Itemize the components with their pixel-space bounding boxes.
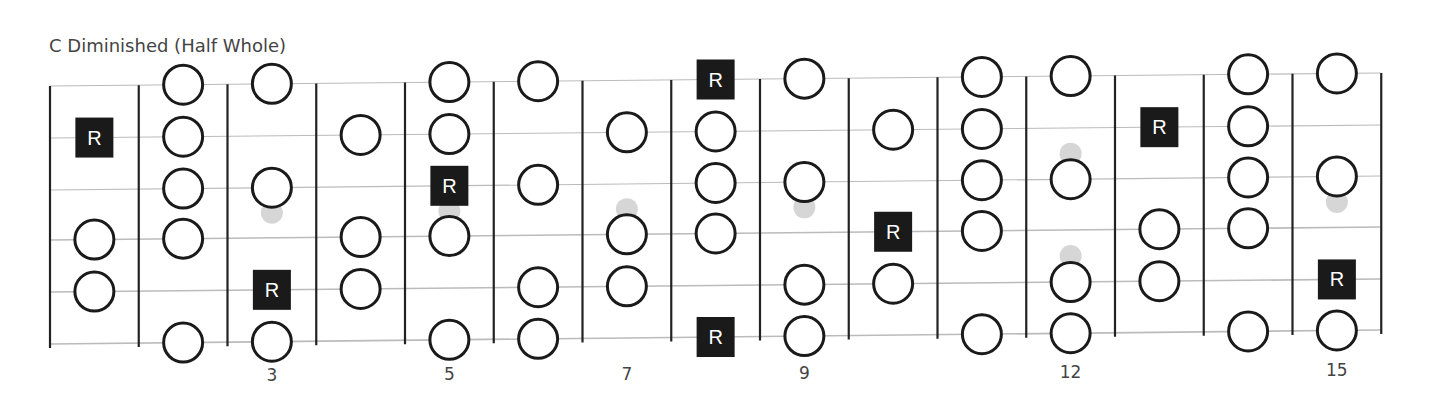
scale-note-circle-icon <box>430 63 469 102</box>
fret-number-9: 9 <box>799 363 810 383</box>
scale-note-circle-icon <box>1229 209 1268 248</box>
scale-note-circle-icon <box>75 272 114 311</box>
root-label: R <box>442 175 456 197</box>
scale-note-circle-icon <box>874 264 913 303</box>
root-label: R <box>1330 268 1344 290</box>
scale-note-circle-icon <box>252 168 291 207</box>
fret-number-7: 7 <box>621 364 632 384</box>
scale-note-circle-icon <box>430 115 469 154</box>
scale-note-circle-icon <box>1229 107 1268 146</box>
scale-note-circle-icon <box>519 268 558 307</box>
fretboard-diagram: RRRRRRRR 35791215 <box>0 0 1452 414</box>
root-note-marker: R <box>75 118 113 158</box>
scale-note-circle-icon <box>341 269 380 308</box>
scale-note-circle-icon <box>1140 262 1179 301</box>
scale-note-circle-icon <box>785 317 824 356</box>
scale-note-circle-icon <box>519 165 558 204</box>
scale-note-circle-icon <box>1051 57 1090 96</box>
root-note-marker: R <box>697 60 735 100</box>
scale-note-circle-icon <box>252 322 291 361</box>
root-label: R <box>708 69 722 91</box>
root-label: R <box>87 127 101 149</box>
root-note-marker: R <box>1318 259 1356 299</box>
scale-note-circle-icon <box>607 113 646 152</box>
scale-note-circle-icon <box>164 117 203 156</box>
scale-note-circle-icon <box>430 320 469 359</box>
root-note-marker: R <box>874 212 912 252</box>
scale-note-circle-icon <box>164 219 203 258</box>
fret-number-3: 3 <box>266 365 277 385</box>
string-line-5 <box>50 279 1381 292</box>
root-note-marker: R <box>430 166 468 206</box>
root-note-marker: R <box>253 270 291 310</box>
scale-note-circle-icon <box>1140 210 1179 249</box>
fret-number-15: 15 <box>1326 360 1348 380</box>
scale-note-circle-icon <box>785 59 824 98</box>
scale-note-circle-icon <box>430 217 469 256</box>
scale-note-circle-icon <box>1229 55 1268 94</box>
scale-note-circle-icon <box>164 169 203 208</box>
root-label: R <box>1152 116 1166 138</box>
root-label: R <box>265 279 279 301</box>
root-note-marker: R <box>1140 107 1178 147</box>
scale-note-circle-icon <box>785 265 824 304</box>
scale-note-circle-icon <box>962 57 1001 96</box>
scale-note-circle-icon <box>607 215 646 254</box>
scale-note-circle-icon <box>785 163 824 202</box>
scale-note-circle-icon <box>962 211 1001 250</box>
scale-note-circle-icon <box>341 217 380 256</box>
scale-note-circle-icon <box>341 115 380 154</box>
scale-note-circle-icon <box>696 112 735 151</box>
scale-note-circle-icon <box>607 267 646 306</box>
fret-number-5: 5 <box>444 364 455 384</box>
scale-note-circle-icon <box>962 315 1001 354</box>
scale-note-circle-icon <box>1317 311 1356 350</box>
scale-note-circle-icon <box>1051 314 1090 353</box>
scale-note-circle-icon <box>1317 54 1356 93</box>
scale-note-circle-icon <box>1051 263 1090 302</box>
scale-note-circle-icon <box>874 110 913 149</box>
fret-number-labels: 35791215 <box>266 360 1347 385</box>
scale-notes: RRRRRRRR <box>75 54 1357 362</box>
scale-note-circle-icon <box>1229 158 1268 197</box>
scale-note-circle-icon <box>519 319 558 358</box>
scale-note-circle-icon <box>252 64 291 103</box>
scale-note-circle-icon <box>696 214 735 253</box>
root-label: R <box>886 221 900 243</box>
scale-note-circle-icon <box>696 164 735 203</box>
root-label: R <box>708 326 722 348</box>
scale-note-circle-icon <box>962 161 1001 200</box>
fret-number-12: 12 <box>1060 362 1082 382</box>
scale-note-circle-icon <box>1051 160 1090 199</box>
scale-note-circle-icon <box>1317 157 1356 196</box>
scale-note-circle-icon <box>519 62 558 101</box>
scale-note-circle-icon <box>164 65 203 104</box>
scale-note-circle-icon <box>164 323 203 362</box>
scale-note-circle-icon <box>1229 312 1268 351</box>
root-note-marker: R <box>697 317 735 357</box>
scale-note-circle-icon <box>75 220 114 259</box>
scale-note-circle-icon <box>962 109 1001 148</box>
